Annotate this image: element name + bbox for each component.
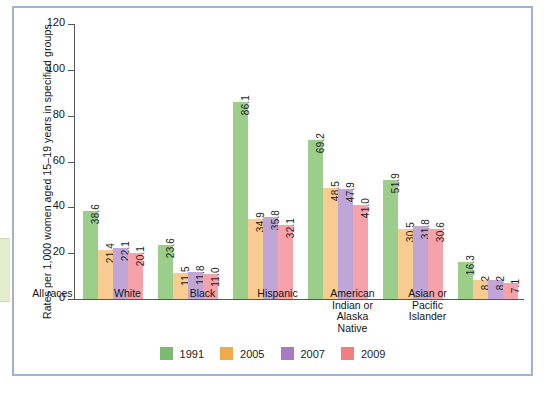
x-axis-category-line: Black <box>165 288 240 300</box>
x-axis-category-label: All races <box>15 288 90 300</box>
bar-value-label: 47.9 <box>345 182 356 202</box>
bar-group: 23.611.511.811.0 <box>150 24 225 299</box>
legend-swatch-icon <box>341 347 354 360</box>
legend-item[interactable]: 2005 <box>220 347 264 360</box>
bar[interactable]: 47.9 <box>338 189 353 299</box>
bar-value-label: 38.6 <box>90 203 101 223</box>
legend-item[interactable]: 1991 <box>160 347 204 360</box>
x-axis-category-line: Native <box>315 323 390 335</box>
y-tick-mark <box>68 70 75 71</box>
bar-value-label: 16.3 <box>465 255 476 275</box>
legend-swatch-icon <box>220 347 233 360</box>
x-axis-category-line: Asian or <box>390 288 465 300</box>
plot-area: 020406080100120 38.621.422.120.123.611.5… <box>74 24 526 305</box>
x-axis-category-line: Islander <box>390 311 465 323</box>
bar[interactable]: 41.0 <box>353 205 368 299</box>
figure-frame: Rates per 1,000 women aged 15–19 years i… <box>12 6 533 376</box>
legend-item[interactable]: 2007 <box>281 347 325 360</box>
bar[interactable]: 8.2 <box>473 280 488 299</box>
legend-swatch-icon <box>281 347 294 360</box>
x-axis-category-line: White <box>90 288 165 300</box>
bar-value-label: 32.1 <box>285 218 296 238</box>
bars-layer: 38.621.422.120.123.611.511.811.086.134.9… <box>75 24 525 299</box>
y-tick-mark <box>68 162 75 163</box>
bar-value-label: 30.6 <box>435 222 446 242</box>
x-axis-category-labels: All racesWhiteBlackHispanicAmericanIndia… <box>15 288 465 348</box>
bar-group: 51.930.531.830.6 <box>375 24 450 299</box>
bar-group: 86.134.935.832.1 <box>225 24 300 299</box>
x-axis-category-label: Hispanic <box>240 288 315 300</box>
legend-label: 2005 <box>240 348 264 360</box>
x-axis-category-label: Asian orPacificIslander <box>390 288 465 323</box>
bar-value-label: 23.6 <box>165 238 176 258</box>
y-tick-mark <box>68 24 75 25</box>
bar[interactable]: 51.9 <box>383 180 398 299</box>
bar-group: 16.38.28.27.1 <box>450 24 525 299</box>
y-tick-label: 120 <box>47 16 65 28</box>
legend-label: 2007 <box>301 348 325 360</box>
bar[interactable]: 8.2 <box>488 280 503 299</box>
x-axis-category-line: American <box>315 288 390 300</box>
bar-value-label: 69.2 <box>315 133 326 153</box>
y-tick-label: 20 <box>53 245 65 257</box>
bar-value-label: 20.1 <box>135 246 146 266</box>
legend-label: 1991 <box>180 348 204 360</box>
bar[interactable]: 38.6 <box>83 211 98 299</box>
bar[interactable]: 86.1 <box>233 102 248 299</box>
legend-item[interactable]: 2009 <box>341 347 385 360</box>
y-tick-mark <box>68 116 75 117</box>
bar-value-label: 86.1 <box>240 95 251 115</box>
bar-value-label: 7.1 <box>510 278 521 293</box>
x-axis-category-label: AmericanIndian orAlaskaNative <box>315 288 390 334</box>
y-tick-label: 60 <box>53 154 65 166</box>
chart-legend: 1991200520072009 <box>14 347 531 360</box>
y-tick-label: 40 <box>53 199 65 211</box>
legend-swatch-icon <box>160 347 173 360</box>
y-tick-label: 80 <box>53 108 65 120</box>
y-tick-label: 100 <box>47 62 65 74</box>
page-edge-tab: Fig. <box>0 238 10 302</box>
bar-value-label: 41.0 <box>360 198 371 218</box>
bar[interactable]: 7.1 <box>503 283 518 299</box>
y-tick-mark <box>68 253 75 254</box>
x-axis-category-label: White <box>90 288 165 300</box>
bar-value-label: 51.9 <box>390 173 401 193</box>
bar[interactable]: 48.5 <box>323 188 338 299</box>
x-axis-category-label: Black <box>165 288 240 300</box>
y-tick-mark <box>68 207 75 208</box>
x-axis-category-line: Hispanic <box>240 288 315 300</box>
bar-value-label: 11.0 <box>210 267 221 287</box>
bar-group: 38.621.422.120.1 <box>75 24 150 299</box>
bar[interactable]: 69.2 <box>308 140 323 299</box>
bar-group: 69.248.547.941.0 <box>300 24 375 299</box>
x-axis-category-line: All races <box>15 288 90 300</box>
x-axis-category-line: Alaska <box>315 311 390 323</box>
legend-label: 2009 <box>361 348 385 360</box>
